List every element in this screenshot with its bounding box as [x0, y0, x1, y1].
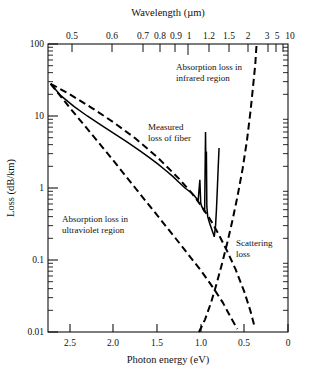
svg-text:0.5: 0.5	[238, 338, 250, 348]
loss-axis-title: Loss (dB/km)	[5, 158, 17, 217]
svg-text:0.8: 0.8	[154, 31, 166, 41]
svg-text:0.5: 0.5	[66, 31, 78, 41]
svg-text:0.9: 0.9	[170, 31, 182, 41]
svg-text:loss: loss	[236, 249, 251, 259]
photon-energy-axis-title: Photon energy (eV)	[127, 354, 210, 366]
svg-text:0.7: 0.7	[137, 31, 149, 41]
svg-text:1.0: 1.0	[195, 338, 207, 348]
chart-background	[0, 0, 310, 372]
svg-text:1.5: 1.5	[151, 338, 163, 348]
svg-text:Absorption loss in: Absorption loss in	[62, 214, 129, 224]
svg-text:0.1: 0.1	[32, 255, 44, 265]
svg-text:0: 0	[286, 338, 291, 348]
svg-text:ultraviolet region: ultraviolet region	[62, 225, 125, 235]
svg-text:1: 1	[187, 31, 192, 41]
svg-text:1.5: 1.5	[223, 31, 235, 41]
chart-svg: Wavelength (µm) 0.5 0.6 0.7 0.8 0.9 1 1.…	[0, 0, 310, 372]
svg-text:2: 2	[246, 31, 251, 41]
svg-text:2.5: 2.5	[64, 338, 76, 348]
wavelength-axis-title: Wavelength (µm)	[131, 7, 205, 19]
svg-text:1: 1	[39, 183, 44, 193]
svg-text:Measured: Measured	[148, 122, 184, 132]
fiber-loss-chart: Wavelength (µm) 0.5 0.6 0.7 0.8 0.9 1 1.…	[0, 0, 310, 372]
svg-text:10: 10	[285, 31, 295, 41]
svg-text:loss of fiber: loss of fiber	[148, 133, 191, 143]
svg-text:3: 3	[265, 31, 270, 41]
svg-text:infrared region: infrared region	[176, 73, 230, 83]
annotation-ultraviolet-absorption: Absorption loss in ultraviolet region	[62, 214, 129, 235]
svg-text:Scattering: Scattering	[236, 238, 273, 248]
svg-text:5: 5	[275, 31, 280, 41]
svg-text:0.6: 0.6	[106, 31, 118, 41]
svg-text:Absorption loss in: Absorption loss in	[176, 62, 243, 72]
svg-text:10: 10	[35, 111, 45, 121]
svg-text:2.0: 2.0	[107, 338, 119, 348]
svg-text:1.2: 1.2	[203, 31, 215, 41]
svg-text:0.01: 0.01	[27, 327, 44, 337]
svg-text:100: 100	[30, 39, 45, 49]
